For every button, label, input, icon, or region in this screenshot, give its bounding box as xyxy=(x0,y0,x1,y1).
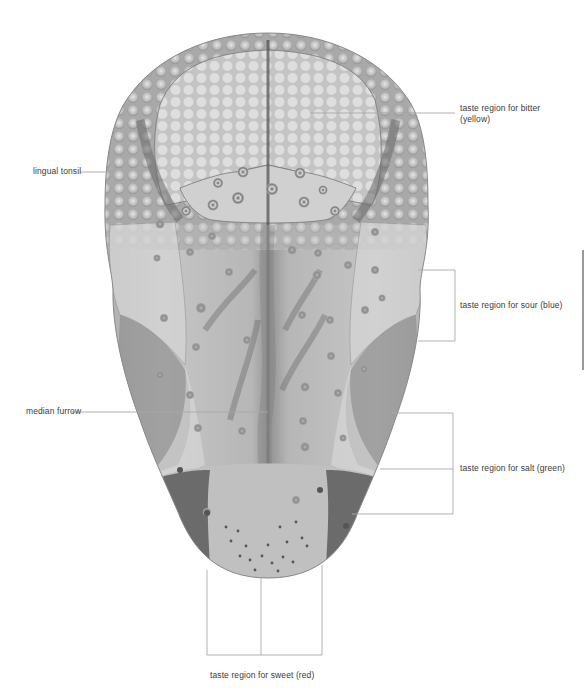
page-edge-marker xyxy=(582,250,584,370)
label-salt: taste region for salt (green) xyxy=(460,463,565,474)
label-bitter-line1: taste region for bitter xyxy=(460,103,540,114)
leader-sweet xyxy=(207,565,322,655)
label-sweet: taste region for sweet (red) xyxy=(210,670,314,681)
label-sour: taste region for sour (blue) xyxy=(460,300,563,311)
label-median-furrow: median furrow xyxy=(26,406,81,417)
leader-sour xyxy=(418,270,455,341)
label-bitter-line2: (yellow) xyxy=(460,114,540,125)
tongue-diagram: taste region for bitter (yellow) lingual… xyxy=(0,0,585,693)
tongue-body xyxy=(90,20,450,590)
label-bitter: taste region for bitter (yellow) xyxy=(460,103,540,125)
label-lingual-tonsil: lingual tonsil xyxy=(33,166,81,177)
